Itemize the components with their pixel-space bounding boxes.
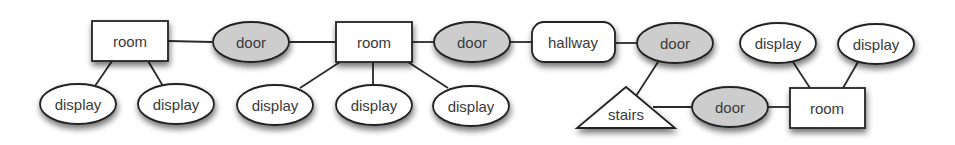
node-label: stairs [608,106,644,123]
node-label: display [252,97,299,114]
node-label: display [448,98,495,115]
node-door-1[interactable]: door [213,22,289,62]
node-label: door [457,34,487,51]
node-label: display [853,36,900,53]
edge-room2-display3 [300,62,340,88]
node-door-3[interactable]: door [637,23,713,63]
node-display-4[interactable]: display [336,85,412,125]
node-display-2[interactable]: display [138,84,214,124]
node-display-5[interactable]: display [433,86,509,126]
node-display-6[interactable]: display [740,23,816,63]
node-label: display [153,96,200,113]
floorplan-graph-diagram: room door room door hallway door stairs … [0,0,955,145]
node-label: display [351,97,398,114]
node-label: door [715,99,745,116]
node-room-2[interactable]: room [336,22,412,62]
node-label: hallway [548,34,599,51]
node-label: door [660,35,690,52]
edge-room3-display7 [843,62,858,88]
edge-room2-display5 [408,62,448,88]
node-room-1[interactable]: room [92,21,168,61]
node-display-1[interactable]: display [40,84,116,124]
edge-room1-door1 [168,41,212,42]
node-door-2[interactable]: door [434,22,510,62]
edge-room1-display2 [148,61,163,86]
node-display-3[interactable]: display [237,85,313,125]
node-label: room [810,100,844,117]
edge-room1-display1 [95,61,112,86]
node-hallway[interactable]: hallway [532,22,615,62]
edge-room3-display6 [793,62,810,88]
node-door-4[interactable]: door [692,87,768,127]
node-label: room [357,34,391,51]
node-label: door [236,34,266,51]
node-label: display [755,35,802,52]
node-display-7[interactable]: display [838,24,914,64]
node-label: display [55,96,102,113]
node-label: room [113,33,147,50]
node-room-3[interactable]: room [790,88,865,128]
edge-door3-stairs [636,62,658,96]
